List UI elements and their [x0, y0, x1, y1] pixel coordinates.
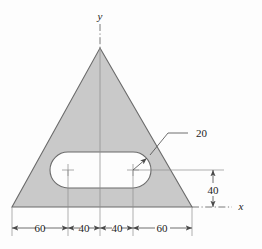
y-axis-label: y	[97, 10, 103, 22]
dim-label-60-left: 60	[35, 222, 47, 234]
dim-label-40-vertical: 40	[208, 184, 220, 196]
engineering-figure: y x 60 40	[0, 0, 262, 249]
dim-label-40-left: 40	[79, 222, 91, 234]
dim-label-60-right: 60	[157, 222, 169, 234]
dim-label-20-radius: 20	[196, 127, 208, 139]
dim-label-40-right: 40	[112, 222, 124, 234]
x-axis-label: x	[238, 200, 244, 212]
drawing-canvas: y x 60 40	[0, 0, 262, 249]
